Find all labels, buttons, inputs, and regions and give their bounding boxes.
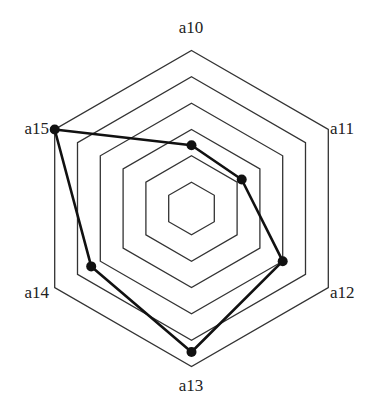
axis-label-a11: a11 [330, 119, 354, 138]
grid-ring-1 [169, 182, 215, 235]
radar-series [50, 125, 288, 358]
grid-ring-5 [78, 77, 306, 340]
data-point-a10 [187, 140, 197, 150]
data-point-a15 [50, 125, 60, 135]
data-point-a12 [278, 256, 288, 266]
radar-grid-rings [55, 51, 329, 367]
axis-label-a14: a14 [24, 283, 49, 302]
data-point-a13 [187, 347, 197, 357]
data-point-a14 [86, 261, 96, 271]
axis-label-a10: a10 [179, 18, 204, 37]
data-point-a11 [237, 175, 247, 185]
grid-ring-2 [146, 156, 237, 261]
axis-label-a15: a15 [24, 119, 49, 138]
grid-ring-3 [123, 130, 260, 288]
axis-label-a12: a12 [330, 283, 355, 302]
grid-ring-6 [55, 51, 329, 367]
axis-label-a13: a13 [179, 376, 204, 395]
radar-chart: a10a11a12a13a14a15 [0, 0, 387, 416]
